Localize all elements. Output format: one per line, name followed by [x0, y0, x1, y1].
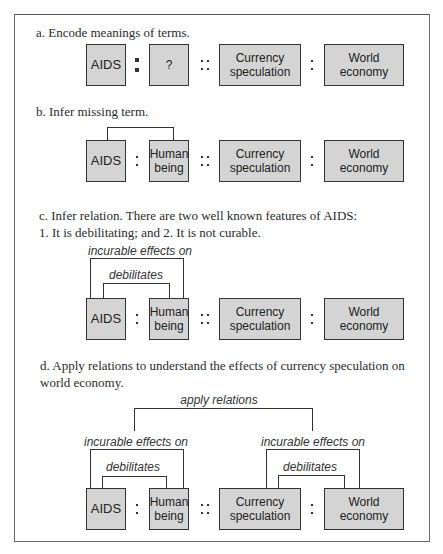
- relation-label-incurable: incurable effects on: [261, 435, 365, 449]
- relation-label-incurable: incurable effects on: [84, 435, 188, 449]
- colon-separator: [306, 488, 318, 530]
- term-aids: AIDS: [86, 140, 126, 182]
- term-label: AIDS: [91, 58, 121, 72]
- term-human-being: Humanbeing: [149, 140, 189, 182]
- colon-separator: [131, 488, 143, 530]
- colon-separator: [131, 298, 143, 340]
- term-aids: AIDS: [86, 298, 126, 340]
- double-colon-separator: [197, 44, 213, 86]
- term-label-line2: economy: [340, 65, 389, 79]
- term-label-line1: Currency: [236, 51, 285, 65]
- term-label-line2: being: [154, 509, 183, 523]
- term-label-line2: being: [154, 161, 183, 175]
- double-colon-separator: [197, 140, 213, 182]
- term-world-economy: Worldeconomy: [324, 44, 404, 86]
- term-label-line2: speculation: [230, 65, 291, 79]
- colon-separator: [306, 44, 318, 86]
- term-label-line1: Human: [150, 495, 189, 509]
- term-label-line2: economy: [340, 509, 389, 523]
- double-colon-separator: [197, 298, 213, 340]
- term-aids: AIDS: [86, 488, 126, 530]
- double-colon-separator: [197, 488, 213, 530]
- apply-relations-bracket: [134, 408, 313, 431]
- relation-label-debilitates: debilitates: [283, 460, 337, 474]
- colon-separator: [306, 298, 318, 340]
- term-world-economy: Worldeconomy: [324, 140, 404, 182]
- term-label: AIDS: [91, 154, 121, 168]
- term-human-being: Humanbeing: [149, 488, 189, 530]
- relation-bracket-inner: [103, 283, 170, 299]
- term-currency-speculation: Currencyspeculation: [219, 298, 301, 340]
- term-label-line1: Human: [150, 305, 189, 319]
- section-d-caption-line1: d. Apply relations to understand the eff…: [40, 358, 405, 374]
- term-label: ?: [166, 58, 173, 72]
- term-world-economy: Worldeconomy: [324, 488, 404, 530]
- term-currency-speculation: Currencyspeculation: [219, 488, 301, 530]
- term-label: AIDS: [91, 502, 121, 516]
- term-label-line2: economy: [340, 161, 389, 175]
- colon-separator: [131, 44, 143, 86]
- term-label-line2: economy: [340, 319, 389, 333]
- section-a-caption: a. Encode meanings of terms.: [36, 25, 190, 41]
- term-label-line2: speculation: [230, 319, 291, 333]
- section-d-caption-line2: world economy.: [40, 375, 124, 391]
- term-label-line1: Currency: [236, 495, 285, 509]
- term-currency-speculation: Currencyspeculation: [219, 44, 301, 86]
- term-label: AIDS: [91, 312, 121, 326]
- link-bracket: [107, 127, 174, 141]
- relation-label-debilitates: debilitates: [109, 268, 163, 282]
- term-human-being: Humanbeing: [149, 298, 189, 340]
- term-label-line1: World: [348, 305, 379, 319]
- section-c-caption-line1: c. Infer relation. There are two well kn…: [39, 208, 357, 224]
- relation-label-debilitates: debilitates: [106, 460, 160, 474]
- colon-separator: [131, 140, 143, 182]
- term-label-line1: Currency: [236, 147, 285, 161]
- term-world-economy: Worldeconomy: [324, 298, 404, 340]
- term-label-line2: speculation: [230, 509, 291, 523]
- relation-label-incurable: incurable effects on: [88, 244, 192, 258]
- term-unknown: ?: [149, 44, 189, 86]
- term-label-line1: Human: [150, 147, 189, 161]
- diagram-frame: [14, 14, 430, 542]
- term-currency-speculation: Currencyspeculation: [219, 140, 301, 182]
- term-label-line2: being: [154, 319, 183, 333]
- section-b-caption: b. Infer missing term.: [36, 104, 148, 120]
- term-label-line1: World: [348, 51, 379, 65]
- term-aids: AIDS: [86, 44, 126, 86]
- term-label-line1: Currency: [236, 305, 285, 319]
- section-c-caption-line2: 1. It is debilitating; and 2. It is not …: [39, 225, 261, 241]
- relation-bracket-inner: [278, 475, 345, 489]
- term-label-line1: World: [348, 147, 379, 161]
- colon-separator: [306, 140, 318, 182]
- term-label-line2: speculation: [230, 161, 291, 175]
- relation-label-apply: apply relations: [180, 393, 257, 407]
- term-label-line1: World: [348, 495, 379, 509]
